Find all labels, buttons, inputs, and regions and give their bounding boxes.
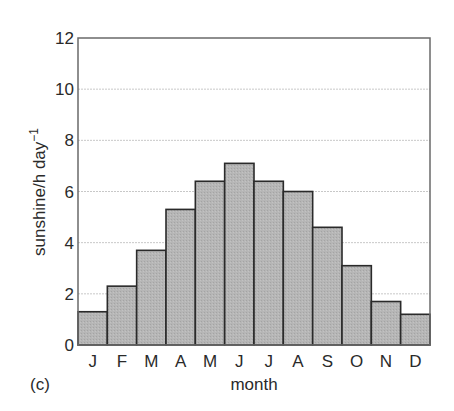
y-axis-label: sunshine/h day−1 [27, 128, 49, 256]
bars [78, 163, 430, 345]
panel-label: (c) [30, 375, 50, 394]
bar-chart: 024681012 JFMAMJJASOND sunshine/h day−1 … [0, 0, 454, 411]
bar-3 [166, 209, 195, 345]
y-tick-labels: 024681012 [55, 29, 74, 355]
bar-8 [313, 227, 342, 345]
bar-2 [137, 250, 166, 345]
bar-10 [371, 302, 400, 345]
x-tick-label: M [203, 352, 217, 371]
bar-1 [107, 286, 136, 345]
bar-9 [342, 266, 371, 345]
y-tick-label: 12 [55, 29, 74, 48]
x-tick-label: A [292, 352, 304, 371]
y-tick-label: 6 [65, 183, 74, 202]
y-tick-label: 8 [65, 131, 74, 150]
bar-7 [283, 192, 312, 346]
x-tick-label: O [350, 352, 363, 371]
x-tick-label: J [88, 352, 97, 371]
bar-6 [254, 181, 283, 345]
bar-0 [78, 312, 107, 345]
x-tick-label: D [409, 352, 421, 371]
x-tick-label: S [322, 352, 333, 371]
x-tick-label: N [380, 352, 392, 371]
bar-11 [401, 314, 430, 345]
bar-4 [195, 181, 224, 345]
y-tick-label: 10 [55, 80, 74, 99]
x-tick-labels: JFMAMJJASOND [88, 352, 421, 371]
y-axis-label-superscript: −1 [27, 128, 41, 142]
y-tick-label: 4 [65, 234, 74, 253]
x-tick-label: F [117, 352, 127, 371]
y-tick-label: 0 [65, 336, 74, 355]
x-tick-label: J [235, 352, 244, 371]
x-tick-label: M [144, 352, 158, 371]
bar-5 [225, 163, 254, 345]
x-tick-label: J [264, 352, 273, 371]
x-tick-label: A [175, 352, 187, 371]
x-axis-label: month [230, 375, 277, 394]
y-tick-label: 2 [65, 285, 74, 304]
